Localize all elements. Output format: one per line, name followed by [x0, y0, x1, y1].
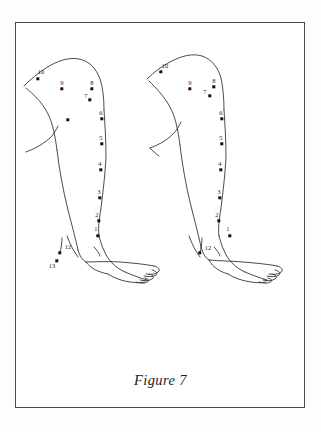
point-dot-right-leg-12 [198, 251, 201, 254]
figure-caption: Figure 7 [0, 372, 321, 389]
point-label-right-leg-1: 1 [226, 225, 229, 232]
point-label-right-leg-4: 4 [218, 160, 221, 167]
point-dot-right-leg-10 [159, 70, 162, 73]
point-label-right-leg-7: 7 [203, 88, 206, 95]
point-dot-right-leg-8 [212, 85, 215, 88]
point-dot-right-leg-2 [217, 219, 220, 222]
point-label-right-leg-8: 8 [212, 77, 215, 84]
figure-page: 123456789101213 1234567891012 Figure 7 [0, 0, 321, 432]
point-dot-right-leg-1 [228, 234, 231, 237]
point-label-right-leg-6: 6 [219, 109, 222, 116]
point-label-right-leg-12: 12 [205, 244, 212, 251]
point-dot-right-leg-4 [219, 168, 222, 171]
point-label-right-leg-3: 3 [217, 188, 220, 195]
point-label-right-leg-2: 2 [215, 211, 218, 218]
point-label-right-leg-9: 9 [188, 79, 191, 86]
point-label-right-leg-10: 10 [162, 62, 169, 69]
point-dot-right-leg-9 [188, 87, 191, 90]
point-dot-right-leg-6 [220, 117, 223, 120]
point-label-right-leg-5: 5 [219, 134, 222, 141]
point-dot-right-leg-3 [218, 196, 221, 199]
point-dot-right-leg-7 [208, 94, 211, 97]
point-dot-right-leg-5 [220, 142, 223, 145]
right-leg-marker-layer: 1234567891012 [0, 0, 321, 432]
